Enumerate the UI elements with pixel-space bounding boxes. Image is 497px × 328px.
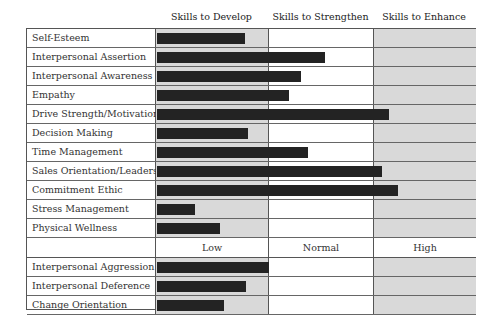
row-label: Commitment Ethic (27, 181, 156, 199)
header-skills-to-strengthen: Skills to Strengthen (268, 11, 373, 22)
table-row: Interpersonal Deference (27, 277, 476, 296)
zone-high (374, 143, 476, 161)
score-bar (157, 33, 245, 44)
table-row: Drive Strength/Motivation (27, 105, 476, 124)
row-label: Empathy (27, 86, 156, 104)
zone-high (374, 48, 476, 66)
table-row: Time Management (27, 143, 476, 162)
zone-high (374, 200, 476, 218)
zone-normal (269, 277, 374, 295)
table-row: Interpersonal Awareness (27, 67, 476, 86)
zone-high (374, 258, 476, 276)
zone-normal (269, 258, 374, 276)
row-label: Physical Wellness (27, 219, 156, 237)
table-row: Stress Management (27, 200, 476, 219)
zone-normal (269, 200, 374, 218)
subheader-high: High (374, 238, 476, 257)
table-row: Commitment Ethic (27, 181, 476, 200)
score-bar (157, 223, 220, 234)
table-row: Sales Orientation/Leadership (27, 162, 476, 181)
row-label: Drive Strength/Motivation (27, 105, 156, 123)
header-skills-to-enhance: Skills to Enhance (373, 11, 475, 22)
zone-high (374, 219, 476, 237)
zone-normal (269, 219, 374, 237)
score-bar (157, 281, 246, 292)
zone-normal (269, 124, 374, 142)
row-label: Sales Orientation/Leadership (27, 162, 156, 180)
skills-chart-table: Self-EsteemInterpersonal AssertionInterp… (26, 28, 476, 310)
row-label: Decision Making (27, 124, 156, 142)
score-bar (157, 71, 301, 82)
zone-normal (269, 296, 374, 314)
subheader-normal: Normal (269, 238, 374, 257)
score-bar (157, 204, 195, 215)
row-label: Self-Esteem (27, 29, 156, 47)
score-bar (157, 147, 308, 158)
zone-high (374, 86, 476, 104)
row-label: Stress Management (27, 200, 156, 218)
table-row: Interpersonal Aggression (27, 258, 476, 277)
score-bar (157, 128, 248, 139)
score-bar (157, 262, 269, 273)
score-bar (157, 166, 382, 177)
table-row: Decision Making (27, 124, 476, 143)
subheader-low: Low (156, 238, 269, 257)
scale-subheader-row: LowNormalHigh (27, 238, 476, 258)
score-bar (157, 109, 389, 120)
score-bar (157, 300, 224, 311)
zone-high (374, 67, 476, 85)
row-label: Interpersonal Aggression (27, 258, 156, 276)
row-label: Interpersonal Deference (27, 277, 156, 295)
zone-high (374, 105, 476, 123)
table-row: Physical Wellness (27, 219, 476, 238)
table-row: Empathy (27, 86, 476, 105)
zone-high (374, 277, 476, 295)
zone-high (374, 162, 476, 180)
zone-normal (269, 29, 374, 47)
score-bar (157, 90, 289, 101)
table-row: Self-Esteem (27, 29, 476, 48)
zone-high (374, 29, 476, 47)
subheader-blank (27, 238, 156, 257)
score-bar (157, 185, 398, 196)
row-label: Interpersonal Assertion (27, 48, 156, 66)
row-label: Time Management (27, 143, 156, 161)
zone-high (374, 296, 476, 314)
header-skills-to-develop: Skills to Develop (155, 11, 268, 22)
row-label: Interpersonal Awareness (27, 67, 156, 85)
row-label: Change Orientation (27, 296, 156, 314)
table-row: Change Orientation (27, 296, 476, 315)
table-row: Interpersonal Assertion (27, 48, 476, 67)
score-bar (157, 52, 325, 63)
zone-high (374, 124, 476, 142)
